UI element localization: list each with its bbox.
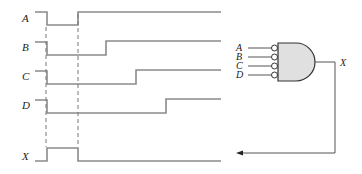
signal-label-a: A [21,12,29,24]
waveform-b [35,41,221,55]
inversion-bubble-d [272,72,278,78]
and-gate-body [278,43,315,81]
signal-label-c: C [22,70,30,82]
waveform-a [35,12,221,25]
arrowhead-icon [236,151,243,156]
signal-label-d: D [21,99,30,111]
diagram-canvas: A B C D X A B C D X [0,0,362,174]
waveform-c [35,70,221,84]
inversion-bubble-c [272,63,278,69]
inversion-bubble-a [272,45,278,51]
gate-output-label: X [339,57,347,68]
signal-label-x: X [21,150,30,162]
timing-diagram-svg: A B C D X A B C D X [0,0,362,174]
waveform-d [35,99,221,113]
signal-label-b: B [22,41,29,53]
inversion-bubble-b [272,54,278,60]
waveform-x [35,148,221,161]
gate-input-label-d: D [235,69,244,80]
